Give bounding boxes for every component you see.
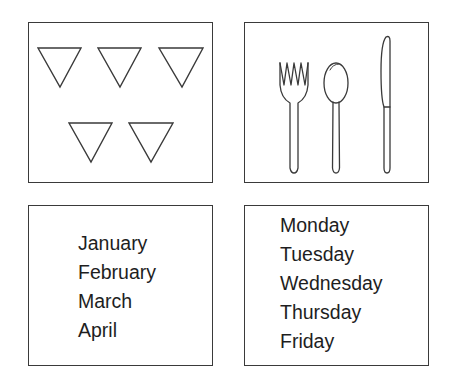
cutlery-drawing (245, 23, 430, 184)
triangle-icon (129, 123, 173, 162)
month-item: April (78, 316, 156, 345)
weekday-item: Tuesday (280, 240, 383, 269)
month-item: January (78, 229, 156, 258)
months-panel: January February March April (28, 205, 213, 366)
cutlery-panel (244, 22, 429, 183)
weekday-item: Friday (280, 327, 383, 356)
triangle-icon (98, 48, 141, 87)
weekdays-list: Monday Tuesday Wednesday Thursday Friday (280, 211, 383, 356)
weekday-item: Thursday (280, 298, 383, 327)
fork-icon (280, 63, 308, 173)
weekday-item: Monday (280, 211, 383, 240)
triangle-icon (159, 48, 203, 87)
spoon-icon (324, 63, 348, 173)
weekdays-panel: Monday Tuesday Wednesday Thursday Friday (244, 205, 429, 366)
triangle-icon (38, 48, 81, 87)
knife-icon (381, 37, 390, 174)
triangle-icon (69, 123, 112, 162)
triangles-drawing (29, 23, 214, 184)
triangles-panel (28, 22, 213, 183)
weekday-item: Wednesday (280, 269, 383, 298)
months-list: January February March April (78, 229, 156, 345)
month-item: March (78, 287, 156, 316)
month-item: February (78, 258, 156, 287)
